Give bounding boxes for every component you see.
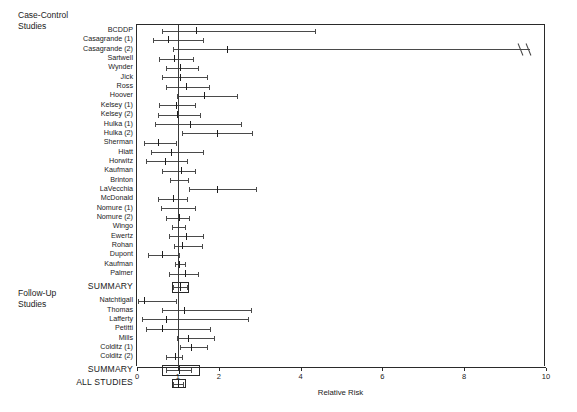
x-axis-tick-label: 4 [299, 372, 303, 381]
row-label: Petitti [2, 324, 133, 332]
point-estimate-marker [168, 36, 169, 43]
ci-lower-cap [162, 169, 163, 174]
point-estimate-marker [188, 335, 189, 342]
plot-inner [137, 25, 546, 367]
ci-upper-cap [198, 272, 199, 277]
ci-upper-cap [195, 169, 196, 174]
point-estimate-marker [186, 83, 187, 90]
confidence-interval-line [180, 347, 207, 348]
ci-lower-cap [151, 150, 152, 155]
row-label: Colditz (1) [2, 343, 133, 351]
point-estimate-marker [162, 251, 163, 258]
case-control-group-title-line1: Case-Control [18, 10, 68, 21]
point-estimate-marker [173, 195, 174, 202]
point-estimate-marker [158, 139, 159, 146]
x-axis-tick-label: 2 [217, 372, 221, 381]
ci-upper-cap [209, 85, 210, 90]
ci-upper-cap [187, 159, 188, 164]
ci-upper-cap [195, 206, 196, 211]
point-estimate-marker [181, 167, 182, 174]
point-estimate-marker [162, 325, 163, 332]
row-label: Ewertz [2, 232, 133, 240]
ci-upper-cap [176, 141, 177, 146]
ci-lower-cap [146, 159, 147, 164]
row-label: Mills [2, 334, 133, 342]
ci-lower-cap [182, 131, 183, 136]
ci-lower-cap [173, 47, 174, 52]
row-label: Palmer [2, 269, 133, 277]
point-estimate-marker [191, 344, 192, 351]
ci-upper-cap [315, 29, 316, 34]
ci-upper-cap [203, 150, 204, 155]
row-label: Sherman [2, 138, 133, 146]
ci-upper-cap [241, 122, 242, 127]
confidence-interval-line [189, 189, 255, 190]
ci-lower-cap [166, 355, 167, 360]
point-estimate-marker [175, 353, 176, 360]
ci-lower-cap [172, 225, 173, 230]
ci-upper-cap [189, 216, 190, 221]
ci-upper-cap [207, 345, 208, 350]
ci-lower-cap [159, 103, 160, 108]
ci-lower-cap [142, 317, 143, 322]
point-estimate-marker [190, 121, 191, 128]
follow-up-group-title-line2: Studies [18, 299, 56, 310]
ci-lower-cap [159, 57, 160, 62]
ci-lower-cap [144, 141, 145, 146]
row-label: Kelsey (1) [2, 101, 133, 109]
forest-plot-figure: BCDDPCasagrande (1)Casagrande (2)Sartwel… [0, 0, 577, 412]
point-estimate-marker [204, 92, 205, 99]
row-label: Horwitz [2, 157, 133, 165]
follow-up-group-title: Follow-UpStudies [18, 288, 56, 310]
confidence-interval-line [175, 264, 186, 265]
confidence-interval-line [159, 59, 193, 60]
confidence-interval-line [162, 310, 250, 311]
row-label: Hulka (2) [2, 129, 133, 137]
row-label: Hulka (1) [2, 120, 133, 128]
point-estimate-marker [174, 55, 175, 62]
x-axis-line [137, 367, 546, 368]
point-estimate-marker [165, 158, 166, 165]
point-estimate-marker [180, 283, 181, 291]
confidence-interval-line [166, 87, 208, 88]
confidence-interval-line [144, 143, 175, 144]
row-label: Ross [2, 82, 133, 90]
row-label: Nomure (2) [2, 213, 133, 221]
summary-row-label: SUMMARY [2, 365, 133, 373]
ci-lower-cap [158, 197, 159, 202]
ci-lower-cap [148, 253, 149, 258]
confidence-interval-line [146, 161, 187, 162]
row-label: Casagrande (1) [2, 35, 133, 43]
point-estimate-marker [182, 242, 183, 249]
x-axis-tick-label: 6 [380, 372, 384, 381]
x-axis-tick-label: 10 [542, 372, 550, 381]
point-estimate-marker [180, 64, 181, 71]
row-label: Casagrande (2) [2, 45, 133, 53]
x-axis-tick-label: 8 [462, 372, 466, 381]
reference-line-rr-1 [178, 25, 179, 367]
point-estimate-marker [180, 74, 181, 81]
ci-lower-cap [166, 66, 167, 71]
row-label: Sartwell [2, 54, 133, 62]
point-estimate-marker [217, 186, 218, 193]
ci-upper-cap [202, 244, 203, 249]
x-axis-title: Relative Risk [136, 388, 545, 397]
ci-upper-cap [237, 94, 238, 99]
ci-lower-cap [166, 216, 167, 221]
confidence-interval-line [177, 96, 237, 97]
x-axis-tick [464, 368, 465, 371]
x-axis-tick [301, 368, 302, 371]
ci-lower-cap [153, 38, 154, 43]
plot-area: 01246810 [136, 24, 545, 366]
row-label: Colditz (2) [2, 352, 133, 360]
confidence-interval-line [177, 338, 214, 339]
confidence-interval-line [142, 319, 248, 320]
ci-upper-cap [200, 113, 201, 118]
ci-upper-cap [207, 75, 208, 80]
x-axis-tick [178, 368, 179, 371]
row-label-column: BCDDPCasagrande (1)Casagrande (2)Sartwel… [0, 0, 133, 412]
ci-lower-cap [189, 187, 190, 192]
ci-upper-cap [176, 299, 177, 304]
point-estimate-marker [178, 380, 179, 388]
ci-lower-cap [166, 85, 167, 90]
